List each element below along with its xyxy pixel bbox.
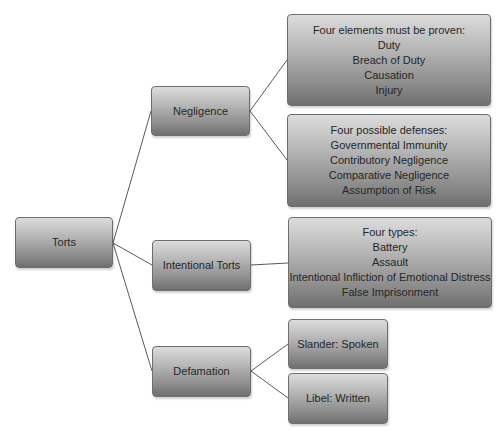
list-item: Contributory Negligence xyxy=(330,153,448,168)
node-negligence-elements: Four elements must be proven: Duty Breac… xyxy=(287,14,491,106)
list-item: Intentional Infliction of Emotional Dist… xyxy=(289,270,490,285)
list-item: Battery xyxy=(373,240,408,255)
list-item: False Imprisonment xyxy=(342,285,439,300)
node-libel: Libel: Written xyxy=(288,373,388,424)
node-slander: Slander: Spoken xyxy=(288,319,388,369)
connector-defamation-libel xyxy=(251,371,288,398)
node-label: Negligence xyxy=(173,104,228,119)
node-negligence-defenses: Four possible defenses: Governmental Imm… xyxy=(287,114,491,207)
node-heading: Four types: xyxy=(362,225,417,240)
node-label: Intentional Torts xyxy=(163,258,240,273)
node-intentional-types: Four types: Battery Assault Intentional … xyxy=(288,217,492,308)
connector-negligence-defenses xyxy=(250,111,287,160)
node-label: Defamation xyxy=(173,364,229,379)
node-torts: Torts xyxy=(15,217,113,268)
connector-torts-intentional xyxy=(113,243,152,265)
list-item: Duty xyxy=(378,38,401,53)
list-item: Comparative Negligence xyxy=(329,168,449,183)
node-defamation: Defamation xyxy=(152,346,251,397)
connector-defamation-slander xyxy=(251,344,288,371)
list-item: Injury xyxy=(376,83,403,98)
node-label: Slander: Spoken xyxy=(297,337,378,352)
torts-concept-map: Torts Negligence Four elements must be p… xyxy=(0,0,503,439)
node-negligence: Negligence xyxy=(151,86,250,136)
connector-torts-negligence xyxy=(113,111,151,243)
connector-negligence-elements xyxy=(250,60,287,111)
node-label: Torts xyxy=(52,235,76,250)
connector-torts-defamation xyxy=(113,243,152,371)
node-heading: Four possible defenses: xyxy=(331,123,448,138)
list-item: Assumption of Risk xyxy=(342,183,436,198)
connector-intentional-types xyxy=(251,263,288,265)
list-item: Assault xyxy=(372,255,408,270)
node-label: Libel: Written xyxy=(306,391,370,406)
node-intentional-torts: Intentional Torts xyxy=(152,240,251,291)
list-item: Breach of Duty xyxy=(353,53,426,68)
node-heading: Four elements must be proven: xyxy=(313,23,465,38)
list-item: Governmental Immunity xyxy=(331,138,448,153)
list-item: Causation xyxy=(364,68,414,83)
